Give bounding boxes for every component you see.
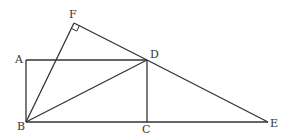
point-label-A: A [15,54,23,65]
segment-BF [26,23,74,122]
figure [0,0,293,139]
segment-DE [147,60,268,122]
point-label-B: B [17,121,25,132]
geometry-diagram: F A D B C E [0,0,293,139]
point-label-D: D [150,49,159,60]
segment-BD [26,60,147,122]
point-label-E: E [270,118,278,129]
segment-FD [74,23,147,60]
point-label-F: F [69,9,77,20]
point-label-C: C [142,124,150,135]
